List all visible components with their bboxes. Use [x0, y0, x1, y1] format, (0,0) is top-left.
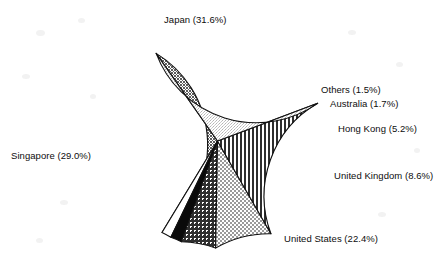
slice-label-united-kingdom: United Kingdom (8.6%)	[334, 170, 433, 181]
slice-label-united-states: United States (22.4%)	[284, 233, 378, 244]
slice-label-australia: Australia (1.7%)	[330, 98, 398, 109]
pie-slice-singapore	[156, 53, 318, 141]
pie-slices-group	[156, 53, 318, 248]
pie-chart-figure: Japan (31.6%) Others (1.5%) Australia (1…	[0, 0, 438, 272]
slice-label-hong-kong: Hong Kong (5.2%)	[338, 123, 417, 134]
pie-chart-canvas	[0, 0, 438, 272]
slice-label-singapore: Singapore (29.0%)	[11, 150, 91, 161]
slice-label-others: Others (1.5%)	[321, 84, 381, 95]
slice-label-japan: Japan (31.6%)	[164, 14, 226, 25]
